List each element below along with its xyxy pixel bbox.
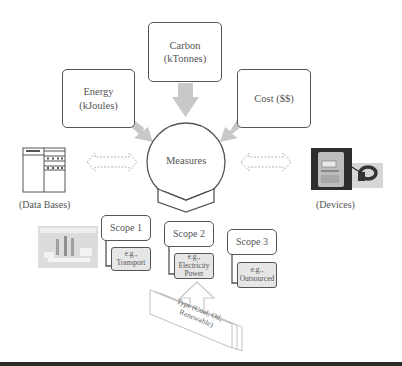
energy-unit: (kJoules) — [79, 99, 118, 112]
scope-1-box: Scope 1 — [101, 215, 151, 241]
meter-device-icon — [311, 148, 383, 190]
scope-1-example-text: Transport — [117, 259, 146, 268]
scope-1-example: e.g., Transport — [111, 247, 151, 271]
energy-box: Energy (kJoules) — [62, 69, 135, 128]
measures-label: Measures — [166, 155, 206, 166]
scope-2-example: e.g., Electricity Power — [174, 253, 214, 279]
dashed-arrow-devices — [241, 153, 291, 171]
scope-2-box: Scope 2 — [164, 221, 214, 247]
scope-2-example-text-2: Power — [178, 270, 209, 279]
scope-3-example-text: Outsourced — [240, 275, 275, 284]
energy-label: Energy — [79, 85, 118, 98]
database-icon — [23, 148, 65, 192]
scope-3-box: Scope 3 — [227, 229, 277, 255]
cost-box: Cost ($$) — [237, 69, 311, 128]
carbon-box: Carbon (kTonnes) — [148, 22, 222, 82]
bottom-border-bar — [0, 362, 402, 366]
cost-label: Cost ($$) — [254, 92, 293, 105]
scope-2-title: Scope 2 — [173, 228, 205, 241]
scope-3-title: Scope 3 — [236, 236, 268, 249]
scope-3-example: e.g., Outsourced — [237, 262, 277, 288]
devices-label: (Devices) — [316, 199, 355, 210]
transport-scene-icon — [38, 226, 98, 268]
arrow-carbon-to-measures — [172, 83, 199, 117]
dashed-arrow-databases — [87, 153, 137, 171]
carbon-unit: (kTonnes) — [164, 52, 206, 65]
databases-label: (Data Bases) — [19, 199, 70, 210]
carbon-label: Carbon — [164, 39, 206, 52]
scope-1-title: Scope 1 — [110, 222, 142, 235]
